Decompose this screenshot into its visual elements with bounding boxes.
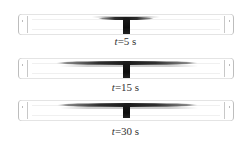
time-value: =30 s: [115, 125, 139, 137]
tube-right-end: [226, 100, 234, 121]
tube-left-end: [18, 100, 26, 121]
snapshot-panel-t30: t=30 s: [0, 0, 251, 143]
time-label: t=30 s: [0, 126, 251, 137]
tube-marker-dot: [229, 106, 230, 108]
tube-marker-dot: [22, 106, 23, 108]
plume-injection-stem: [123, 105, 130, 118]
